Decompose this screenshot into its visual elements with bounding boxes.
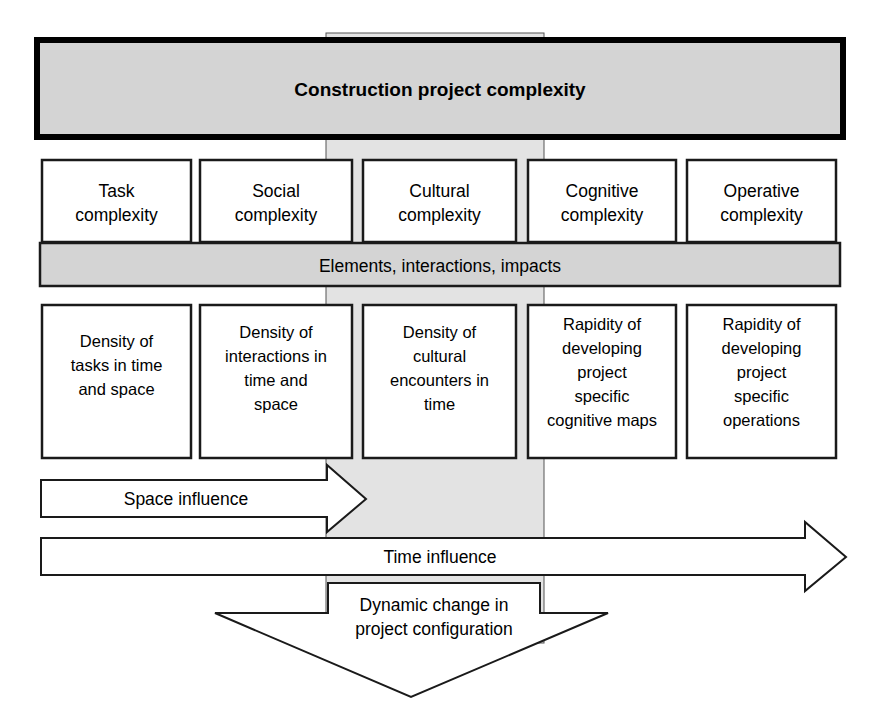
detail-cognitive-line2: developing bbox=[562, 339, 642, 357]
construction-project-complexity-diagram: Construction project complexity Task com… bbox=[0, 0, 875, 723]
category-label-operative-line1: Operative bbox=[724, 181, 800, 201]
detail-cultural-line2: cultural bbox=[413, 347, 466, 365]
detail-cultural-line1: Density of bbox=[403, 323, 477, 341]
category-box-cultural bbox=[363, 160, 516, 242]
elements-band-label: Elements, interactions, impacts bbox=[319, 256, 561, 276]
diagram-root: Construction project complexity Task com… bbox=[0, 0, 875, 723]
category-label-task-line2: complexity bbox=[75, 205, 158, 225]
category-label-task-line1: Task bbox=[99, 181, 135, 201]
dynamic-change-label-line1: Dynamic change in bbox=[360, 595, 509, 615]
detail-social-line3: time and bbox=[244, 371, 307, 389]
category-box-task bbox=[42, 160, 191, 242]
detail-operative-line1: Rapidity of bbox=[723, 315, 801, 333]
category-box-operative bbox=[687, 160, 836, 242]
detail-task-line2: tasks in time bbox=[71, 356, 163, 374]
detail-operative-line5: operations bbox=[723, 411, 800, 429]
category-label-social-line2: complexity bbox=[235, 205, 318, 225]
detail-task-line1: Density of bbox=[80, 332, 154, 350]
category-label-social-line1: Social bbox=[252, 181, 300, 201]
detail-social-line4: space bbox=[254, 395, 298, 413]
dynamic-change-label-line2: project configuration bbox=[355, 619, 513, 639]
detail-task-line3: and space bbox=[78, 380, 154, 398]
detail-cultural-line3: encounters in bbox=[390, 371, 489, 389]
category-box-social bbox=[200, 160, 352, 242]
detail-cognitive-line4: specific bbox=[574, 387, 629, 405]
category-label-operative-line2: complexity bbox=[720, 205, 803, 225]
category-label-cultural-line1: Cultural bbox=[409, 181, 469, 201]
category-label-cultural-line2: complexity bbox=[398, 205, 481, 225]
detail-cognitive-line1: Rapidity of bbox=[563, 315, 641, 333]
detail-cognitive-line5: cognitive maps bbox=[547, 411, 657, 429]
title-box-label: Construction project complexity bbox=[294, 79, 586, 100]
detail-operative-line3: project bbox=[737, 363, 787, 381]
detail-social-line1: Density of bbox=[239, 323, 313, 341]
detail-social-line2: interactions in bbox=[225, 347, 327, 365]
detail-cultural-line4: time bbox=[424, 395, 455, 413]
detail-operative-line4: specific bbox=[734, 387, 789, 405]
category-box-cognitive bbox=[528, 160, 676, 242]
category-label-cognitive-line1: Cognitive bbox=[566, 181, 639, 201]
category-label-cognitive-line2: complexity bbox=[561, 205, 644, 225]
detail-operative-line2: developing bbox=[722, 339, 802, 357]
detail-cognitive-line3: project bbox=[577, 363, 627, 381]
space-influence-label: Space influence bbox=[124, 489, 249, 509]
time-influence-label: Time influence bbox=[383, 547, 496, 567]
